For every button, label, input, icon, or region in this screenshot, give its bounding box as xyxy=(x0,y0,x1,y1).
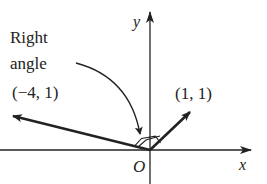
origin-label: O xyxy=(133,158,145,175)
vector-1-1-arrow xyxy=(150,112,190,150)
annotation-line1: Right xyxy=(10,29,48,46)
vector-diagram: Right angle (−4, 1) (1, 1) y x O xyxy=(0,0,267,184)
y-axis-label: y xyxy=(133,14,140,30)
vector-neg4-1-arrow xyxy=(13,116,150,150)
annotation-line2: angle xyxy=(10,55,47,72)
vector-neg4-1-label: (−4, 1) xyxy=(12,84,58,101)
vector-1-1-label: (1, 1) xyxy=(175,85,212,102)
right-angle-pointer-arrow xyxy=(76,63,140,134)
x-axis-label: x xyxy=(239,157,246,173)
